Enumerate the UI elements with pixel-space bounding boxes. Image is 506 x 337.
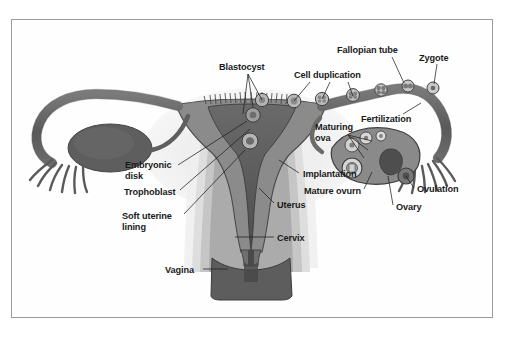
- figure-root: BlastocystFallopian tubeZygoteCell dupli…: [0, 0, 506, 337]
- label-ovary: Ovary: [396, 202, 422, 213]
- left-fimbriae: [30, 160, 87, 193]
- label-fertilization: Fertilization: [361, 114, 411, 125]
- anatomy-illustration: [0, 0, 506, 337]
- label-trophoblast: Trophoblast: [124, 187, 175, 198]
- leader-line-zygote: [434, 64, 437, 84]
- leader-line-fertilization: [403, 103, 421, 114]
- label-ovulation: Ovulation: [417, 184, 458, 195]
- label-cervix: Cervix: [277, 233, 305, 244]
- label-blastocyst: Blastocyst: [219, 62, 264, 73]
- label-soft-uterine-lining: Soft uterine lining: [122, 211, 172, 233]
- label-mature-ovum: Mature ovurn: [304, 186, 361, 197]
- label-uterus: Uterus: [277, 200, 306, 211]
- label-vagina: Vagina: [165, 265, 194, 276]
- label-cell-duplication: Cell duplication: [294, 70, 361, 81]
- label-maturing-ova: Maturing ova: [315, 122, 353, 144]
- label-zygote: Zygote: [419, 53, 449, 64]
- label-fallopian-tube: Fallopian tube: [337, 45, 398, 56]
- label-embryonic-disk: Embryonic disk: [125, 160, 172, 182]
- leader-line-fallopian-tube: [392, 57, 404, 83]
- label-implantation: Implantation: [303, 169, 356, 180]
